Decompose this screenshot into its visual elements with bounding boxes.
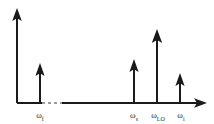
tick-label-ws: ωs	[130, 110, 139, 122]
frequency-spectrum-figure: ωf ωs ωLO ωi	[0, 0, 214, 124]
frequency-axis	[17, 98, 207, 108]
spectral-line-ws	[129, 59, 138, 103]
tick-label-wlo-sub: LO	[157, 116, 166, 122]
spectral-line-wf	[35, 63, 44, 103]
tick-label-wlo: ωLO	[151, 110, 165, 122]
tick-label-wf-sub: f	[42, 116, 44, 122]
amplitude-axis	[12, 8, 22, 103]
tick-label-wi-sub: i	[183, 116, 185, 122]
tick-label-wi: ωi	[177, 110, 185, 122]
tick-label-wf: ωf	[36, 110, 44, 122]
spectrum-plot: ωf ωs ωLO ωi	[0, 0, 214, 124]
spectral-line-wlo	[152, 29, 162, 103]
tick-label-ws-sub: s	[136, 116, 139, 122]
spectral-line-wi	[175, 73, 184, 103]
